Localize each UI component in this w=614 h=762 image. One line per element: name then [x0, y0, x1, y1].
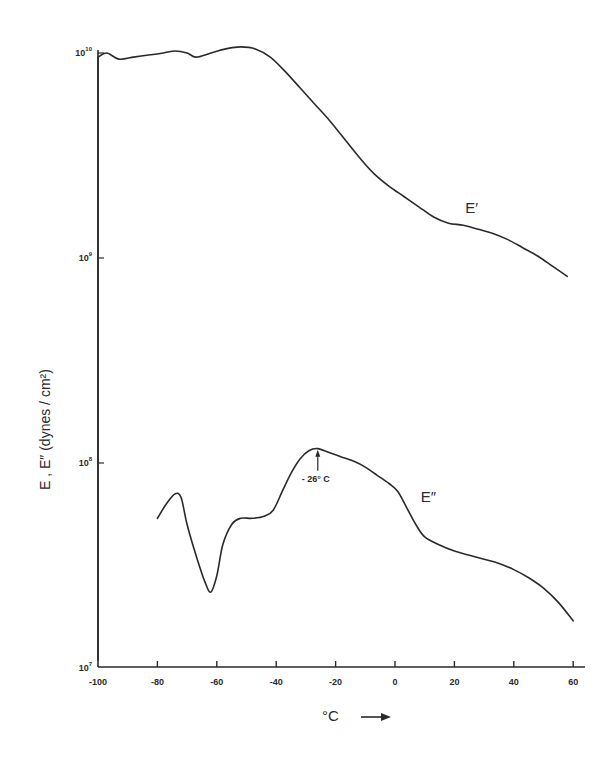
y-tick-label: 108: [79, 456, 93, 468]
x-tick-label: -60: [210, 677, 223, 687]
annotations: E′ E″ - 26° C: [302, 199, 478, 505]
x-tick-label: -100: [89, 677, 107, 687]
axes: [98, 50, 585, 667]
x-tick-label: 0: [392, 677, 397, 687]
e-double-prime-label: E″: [421, 488, 437, 505]
curves: [98, 47, 573, 660]
y-ticks: 1071081091010: [75, 46, 104, 673]
dynamic-modulus-chart: -100-80-60-40-200204060 1071081091010 E′…: [0, 0, 614, 762]
x-tick-label: 20: [449, 677, 459, 687]
x-tick-label: -20: [329, 677, 342, 687]
x-axis-title: °C: [322, 707, 391, 724]
peak-arrowhead-icon: [315, 450, 320, 457]
right-arrowhead-icon: [381, 713, 391, 721]
x-tick-label: -80: [151, 677, 164, 687]
y-tick-label: 1010: [75, 46, 92, 58]
x-tick-label: 60: [568, 677, 578, 687]
x-tick-label: 40: [509, 677, 519, 687]
peak-temperature-annotation: - 26° C: [302, 474, 331, 484]
e-prime-label: E′: [465, 199, 478, 216]
x-axis-label: °C: [322, 707, 339, 724]
x-ticks: -100-80-60-40-200204060: [89, 661, 578, 687]
e-double-prime-curve: [157, 449, 573, 621]
y-tick-label: 107: [79, 661, 93, 673]
y-axis-label: E , E″ (dynes / cm²): [37, 369, 53, 490]
x-tick-label: -40: [270, 677, 283, 687]
y-tick-label: 109: [79, 251, 93, 263]
e-prime-curve: [98, 47, 567, 660]
